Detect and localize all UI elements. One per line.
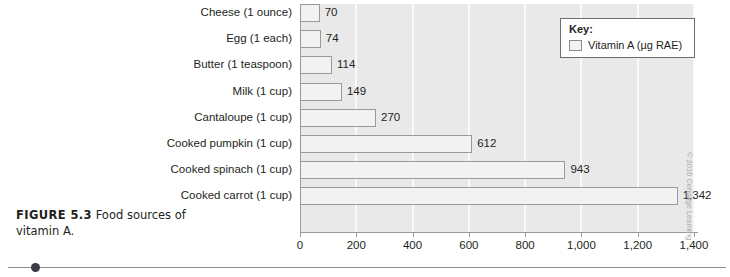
category-label: Cooked pumpkin (1 cup) xyxy=(80,137,292,149)
legend-entry: Vitamin A (µg RAE) xyxy=(569,39,694,51)
bar-row: Cooked spinach (1 cup)943 xyxy=(0,161,730,187)
bar-value-label: 149 xyxy=(347,85,366,97)
category-label: Cheese (1 ounce) xyxy=(80,6,292,18)
legend-swatch-icon xyxy=(569,40,582,51)
category-label: Cooked spinach (1 cup) xyxy=(80,163,292,175)
bar-value-label: 270 xyxy=(381,111,400,123)
category-label: Butter (1 teaspoon) xyxy=(80,58,292,70)
category-label: Milk (1 cup) xyxy=(80,85,292,97)
x-axis-tick-label: 0 xyxy=(297,239,303,251)
x-axis-tick xyxy=(694,232,695,237)
category-label: Egg (1 each) xyxy=(80,32,292,44)
x-axis-tick xyxy=(469,232,470,237)
x-axis-tick-label: 1,200 xyxy=(623,239,652,251)
bar-row: Milk (1 cup)149 xyxy=(0,83,730,109)
copyright-credit: © 2016 Cengage Learning xyxy=(685,152,694,240)
bar-row: Cantaloupe (1 cup)270 xyxy=(0,109,730,135)
legend-title: Key: xyxy=(569,23,694,36)
bar-value-label: 943 xyxy=(570,163,589,175)
x-axis-tick xyxy=(581,232,582,237)
bar xyxy=(300,30,321,48)
bar-value-label: 114 xyxy=(337,58,355,70)
footer-divider xyxy=(8,267,726,268)
bar xyxy=(300,109,376,127)
x-axis-tick-label: 400 xyxy=(403,239,422,251)
chart-legend: Key: Vitamin A (µg RAE) xyxy=(560,18,695,58)
x-axis-tick-label: 800 xyxy=(516,239,535,251)
figure-caption: FIGURE 5.3 Food sources of vitamin A. xyxy=(16,207,206,239)
x-axis-tick xyxy=(300,232,301,237)
legend-series-label: Vitamin A (µg RAE) xyxy=(588,39,682,51)
bar xyxy=(300,56,332,74)
x-axis-tick-label: 1,400 xyxy=(680,239,709,251)
figure-container: 02004006008001,0001,2001,400 Cheese (1 o… xyxy=(0,0,730,277)
bar xyxy=(300,187,678,205)
bar-value-label: 74 xyxy=(326,32,339,44)
bar-row: Cooked pumpkin (1 cup)612 xyxy=(0,135,730,161)
bar xyxy=(300,161,565,179)
x-axis-tick xyxy=(356,232,357,237)
category-label: Cooked carrot (1 cup) xyxy=(80,189,292,201)
x-axis-tick xyxy=(638,232,639,237)
bar-value-label: 70 xyxy=(325,6,338,18)
bar-value-label: 612 xyxy=(477,137,496,149)
category-label: Cantaloupe (1 cup) xyxy=(80,111,292,123)
x-axis-tick-label: 200 xyxy=(347,239,366,251)
x-axis-tick xyxy=(525,232,526,237)
bar xyxy=(300,4,320,22)
x-axis-tick-label: 600 xyxy=(459,239,478,251)
x-axis-tick xyxy=(413,232,414,237)
x-axis-tick-label: 1,000 xyxy=(567,239,596,251)
bar-row: Butter (1 teaspoon)114 xyxy=(0,56,730,82)
bar xyxy=(300,83,342,101)
figure-number: FIGURE 5.3 xyxy=(16,208,92,222)
bar xyxy=(300,135,472,153)
footer-dot-marker xyxy=(31,263,40,272)
